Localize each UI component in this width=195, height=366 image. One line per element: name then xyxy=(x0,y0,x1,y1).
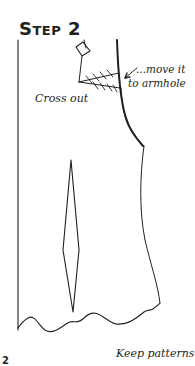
armhole-curve-thin xyxy=(121,88,144,146)
dart-stem xyxy=(79,56,82,82)
side-seam xyxy=(141,146,160,303)
cross-out-ticks xyxy=(86,70,117,92)
annotation-cross-out: Cross out xyxy=(35,93,88,104)
neckline-box xyxy=(76,42,90,56)
corner-step-mark: 2 xyxy=(2,355,9,366)
annotation-move-it: ...move it xyxy=(136,64,185,75)
wavy-hem xyxy=(18,303,160,332)
annotation-keep-patterns: Keep patterns xyxy=(116,348,194,359)
annotation-to-armhole: to armhole xyxy=(128,78,186,89)
waist-dart xyxy=(63,160,79,312)
